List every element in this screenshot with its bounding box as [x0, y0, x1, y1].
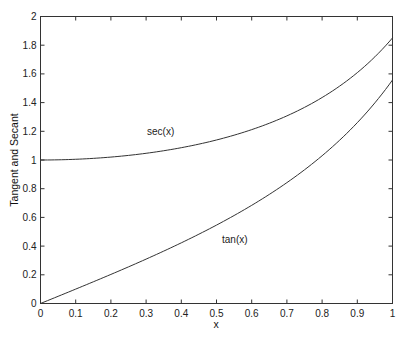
y-tick-label: 0.8 [23, 183, 37, 194]
y-tick-label: 1.8 [23, 40, 37, 51]
chart: 00.10.20.30.40.50.60.70.80.91 00.20.40.6… [0, 0, 408, 340]
x-axis-label: x [213, 318, 219, 330]
x-tick-label: 0 [38, 308, 44, 319]
y-axis-label: Tangent and Secant [8, 113, 20, 206]
y-axis-ticks: 00.20.40.60.811.21.41.61.82 [23, 11, 393, 309]
x-tick-label: 0.8 [315, 308, 329, 319]
sec-annotation: sec(x) [147, 126, 174, 137]
x-tick-label: 0.6 [245, 308, 259, 319]
y-tick-label: 1.4 [23, 97, 37, 108]
y-tick-label: 1 [31, 155, 37, 166]
y-tick-label: 0.2 [23, 269, 37, 280]
y-tick-label: 0.4 [23, 241, 37, 252]
y-tick-label: 0 [31, 298, 37, 309]
x-axis-ticks: 00.10.20.30.40.50.60.70.80.91 [38, 17, 396, 319]
y-tick-label: 0.6 [23, 212, 37, 223]
y-tick-label: 1.2 [23, 126, 37, 137]
tan-annotation: tan(x) [222, 234, 248, 245]
axes-frame [41, 17, 393, 304]
x-tick-label: 0.4 [174, 308, 188, 319]
x-tick-label: 0.7 [280, 308, 294, 319]
x-tick-label: 0.9 [350, 308, 364, 319]
x-tick-label: 0.5 [210, 308, 224, 319]
x-tick-label: 1 [390, 308, 396, 319]
x-tick-label: 0.3 [139, 308, 153, 319]
x-tick-label: 0.2 [104, 308, 118, 319]
tan-curve [41, 80, 393, 303]
y-tick-label: 1.6 [23, 68, 37, 79]
x-tick-label: 0.1 [69, 308, 83, 319]
plot-curves [41, 38, 393, 304]
sec-curve [41, 38, 393, 160]
y-tick-label: 2 [31, 11, 37, 22]
